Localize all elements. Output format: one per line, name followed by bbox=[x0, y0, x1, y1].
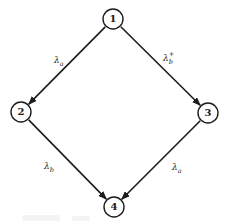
node-label-1: 1 bbox=[110, 13, 117, 24]
edge-label-3-4: λa bbox=[171, 162, 182, 175]
node-label-3: 3 bbox=[205, 107, 212, 118]
edge-3-4 bbox=[122, 121, 200, 199]
node-1: 1 bbox=[103, 9, 123, 29]
node-label-4: 4 bbox=[111, 201, 118, 212]
edge-1-2 bbox=[29, 27, 106, 104]
edge-label-2-4: λb bbox=[43, 161, 54, 174]
edge-label-1-2: λa bbox=[53, 55, 64, 68]
node-2: 2 bbox=[11, 102, 31, 122]
node-3: 3 bbox=[198, 103, 218, 123]
node-4: 4 bbox=[104, 197, 124, 217]
edge-1-3 bbox=[121, 27, 200, 106]
diagram-svg: λaλb+λbλa1234 bbox=[0, 0, 231, 224]
faint-print-artifact bbox=[22, 215, 60, 221]
edge-label-1-3: λb+ bbox=[162, 50, 174, 66]
figure-canvas: λaλb+λbλa1234 bbox=[0, 0, 231, 224]
node-label-2: 2 bbox=[18, 106, 25, 117]
faint-print-artifact bbox=[72, 216, 90, 221]
edge-2-4 bbox=[29, 120, 107, 199]
